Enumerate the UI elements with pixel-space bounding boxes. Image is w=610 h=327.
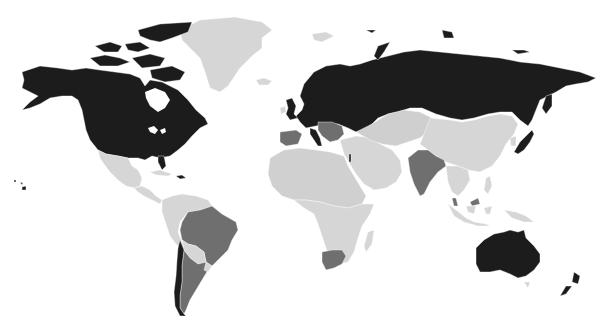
region-australia[interactable] <box>476 230 540 278</box>
region-south-africa[interactable] <box>322 250 346 270</box>
region-png[interactable] <box>504 210 534 222</box>
world-choropleth-map <box>0 0 610 327</box>
region-hawaii[interactable] <box>14 180 26 190</box>
region-southeast-asia[interactable] <box>446 166 470 196</box>
region-iberia[interactable] <box>280 130 302 146</box>
region-central-america[interactable] <box>134 186 162 204</box>
map-svg <box>0 0 610 327</box>
region-malaysia[interactable] <box>452 198 480 206</box>
region-uk[interactable] <box>286 98 298 120</box>
region-ireland[interactable] <box>280 106 286 114</box>
region-cuba[interactable] <box>150 170 172 176</box>
region-svalbard[interactable] <box>312 32 334 42</box>
region-korea[interactable] <box>510 136 516 146</box>
region-israel[interactable] <box>349 154 351 162</box>
region-florida[interactable] <box>158 156 166 170</box>
region-arctic-islands[interactable] <box>366 30 530 54</box>
region-philippines[interactable] <box>484 176 492 194</box>
region-madagascar[interactable] <box>364 230 374 252</box>
region-japan[interactable] <box>514 130 534 154</box>
region-new-zealand[interactable] <box>560 272 580 296</box>
region-iceland[interactable] <box>256 78 272 85</box>
region-tasmania[interactable] <box>524 282 530 288</box>
region-hispaniola[interactable] <box>176 175 186 179</box>
region-indonesia[interactable] <box>448 204 492 226</box>
